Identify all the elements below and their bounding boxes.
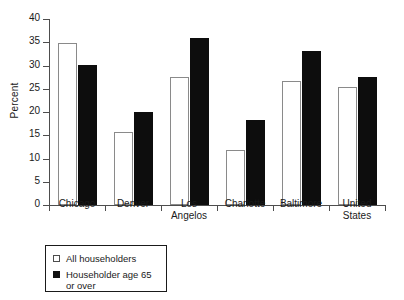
plot-area: 0510152025303540 xyxy=(49,19,385,205)
y-axis-tick-label: 40 xyxy=(29,12,40,23)
x-axis-category-label-line: United xyxy=(312,198,402,210)
bar-age-65-or-over xyxy=(134,112,153,205)
bar-all-householders xyxy=(226,150,245,205)
legend-swatch-dark-icon xyxy=(53,271,60,278)
x-axis-category-label-line: Angelos xyxy=(144,210,234,222)
legend-item-householder-age-65-or-over: Householder age 65 or over xyxy=(53,269,152,291)
bar-chart: Percent 0510152025303540 All householder… xyxy=(0,0,404,300)
chart-legend: All householders Householder age 65 or o… xyxy=(45,245,167,292)
bar-age-65-or-over xyxy=(78,65,97,205)
bar-all-householders xyxy=(170,77,189,205)
y-axis-tick-label: 15 xyxy=(29,128,40,139)
y-axis-tick-label: 30 xyxy=(29,59,40,70)
y-axis-title: Percent xyxy=(9,61,20,141)
y-axis-tick: 40 xyxy=(43,19,49,20)
x-axis-category-label-line: States xyxy=(312,210,402,222)
y-axis-line xyxy=(49,19,50,205)
bar-age-65-or-over xyxy=(302,51,321,205)
bar-age-65-or-over xyxy=(190,38,209,205)
bar-all-householders xyxy=(282,81,301,205)
bar-age-65-or-over xyxy=(246,120,265,205)
legend-swatch-light-icon xyxy=(53,255,60,262)
y-axis-tick-label: 35 xyxy=(29,35,40,46)
legend-label: Householder age 65 or over xyxy=(66,269,152,291)
bar-all-householders xyxy=(114,132,133,205)
bar-age-65-or-over xyxy=(358,77,377,205)
y-axis-tick: 10 xyxy=(43,159,49,160)
y-axis-tick-label: 20 xyxy=(29,105,40,116)
y-axis-tick: 15 xyxy=(43,135,49,136)
legend-item-all-householders: All householders xyxy=(53,253,136,264)
x-axis-category-label: UnitedStates xyxy=(312,198,402,222)
y-axis-tick: 30 xyxy=(43,66,49,67)
y-axis-tick-label: 25 xyxy=(29,82,40,93)
y-axis-tick: 25 xyxy=(43,89,49,90)
legend-label: All householders xyxy=(66,253,136,264)
bar-all-householders xyxy=(58,43,77,205)
bar-all-householders xyxy=(338,87,357,205)
y-axis-tick: 5 xyxy=(43,182,49,183)
y-axis-tick: 35 xyxy=(43,42,49,43)
y-axis-tick: 20 xyxy=(43,112,49,113)
y-axis-tick-label: 5 xyxy=(34,175,40,186)
y-axis-tick-label: 10 xyxy=(29,152,40,163)
